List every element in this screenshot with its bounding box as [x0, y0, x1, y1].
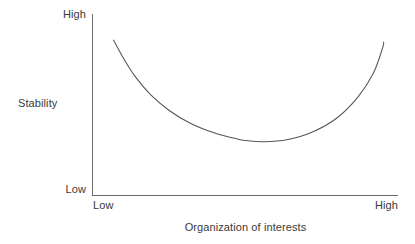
- y-axis-low-tick-label: Low: [36, 183, 86, 196]
- x-axis-high-tick-label: High: [348, 199, 398, 212]
- x-axis-low-tick-label: Low: [93, 199, 113, 212]
- stability-curve: [114, 40, 384, 142]
- y-axis-title: Stability: [18, 97, 57, 110]
- chart-figure: High Low Low High Stability Organization…: [0, 0, 415, 244]
- y-axis-high-tick-label: High: [36, 8, 86, 21]
- x-axis-title: Organization of interests: [92, 221, 399, 234]
